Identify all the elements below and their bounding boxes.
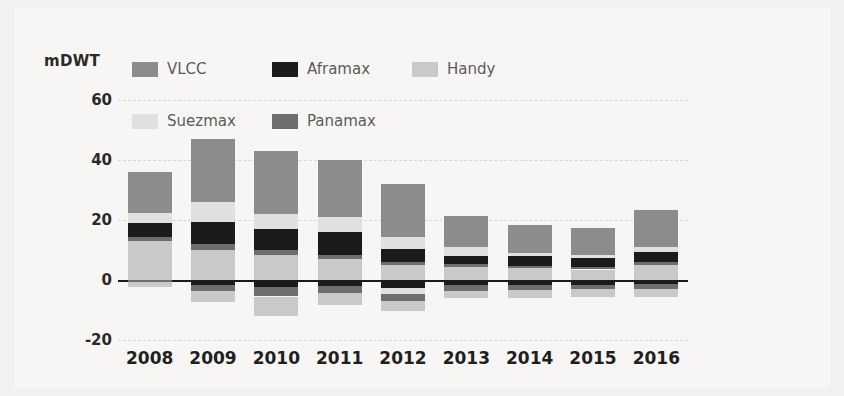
bar-segment-neg-2011-panamax bbox=[318, 286, 362, 293]
bar-segment-2010-suezmax bbox=[254, 214, 298, 229]
legend-label-vlcc: VLCC bbox=[167, 60, 207, 78]
bar-segment-2014-vlcc bbox=[508, 225, 552, 254]
legend-item-aframax[interactable]: Aframax bbox=[272, 60, 370, 78]
bar-segment-2011-handy bbox=[318, 259, 362, 280]
legend-swatch-aframax bbox=[272, 62, 298, 77]
x-axis-tick-2012: 2012 bbox=[368, 348, 438, 368]
bar-segment-2015-aframax bbox=[571, 258, 615, 267]
bar-group-2008[interactable] bbox=[128, 100, 172, 340]
bar-segment-2013-handy bbox=[444, 267, 488, 281]
bar-segment-2012-handy bbox=[381, 265, 425, 280]
bar-segment-neg-2010-handy bbox=[254, 297, 298, 317]
x-axis-tick-2011: 2011 bbox=[305, 348, 375, 368]
x-axis-tick-2009: 2009 bbox=[178, 348, 248, 368]
bar-segment-2008-panamax bbox=[128, 237, 172, 242]
bar-segment-2008-vlcc bbox=[128, 172, 172, 213]
bar-segment-2011-panamax bbox=[318, 255, 362, 260]
bar-segment-2010-aframax bbox=[254, 229, 298, 250]
bar-segment-2013-vlcc bbox=[444, 216, 488, 248]
bar-segment-2010-vlcc bbox=[254, 151, 298, 214]
bar-group-2011[interactable] bbox=[318, 100, 362, 340]
bar-segment-2014-panamax bbox=[508, 266, 552, 268]
chart-plot-wrapper: mDWT VLCCAframaxHandySuezmaxPanamax 6040… bbox=[0, 0, 844, 396]
x-axis-tick-2010: 2010 bbox=[241, 348, 311, 368]
bar-segment-2015-vlcc bbox=[571, 228, 615, 255]
gridline--20 bbox=[118, 340, 688, 341]
bar-segment-2013-aframax bbox=[444, 256, 488, 264]
legend-item-handy[interactable]: Handy bbox=[412, 60, 495, 78]
bar-group-2014[interactable] bbox=[508, 100, 552, 340]
x-axis-tick-2014: 2014 bbox=[495, 348, 565, 368]
bar-segment-2012-aframax bbox=[381, 249, 425, 263]
bar-segment-neg-2016-handy bbox=[634, 289, 678, 297]
bar-group-2015[interactable] bbox=[571, 100, 615, 340]
bar-segment-2009-suezmax bbox=[191, 202, 235, 222]
x-axis-tick-2015: 2015 bbox=[558, 348, 628, 368]
bar-segment-neg-2009-panamax bbox=[191, 285, 235, 292]
legend-row: VLCCAframaxHandy bbox=[132, 60, 602, 86]
bar-group-2010[interactable] bbox=[254, 100, 298, 340]
chart-figure: mDWT VLCCAframaxHandySuezmaxPanamax 6040… bbox=[0, 0, 844, 396]
x-axis-tick-2016: 2016 bbox=[621, 348, 691, 368]
x-axis-tick-2008: 2008 bbox=[115, 348, 185, 368]
bar-segment-neg-2013-handy bbox=[444, 291, 488, 298]
bar-segment-neg-2012-aframax bbox=[381, 280, 425, 288]
bar-segment-2009-vlcc bbox=[191, 139, 235, 202]
y-axis-unit-label: mDWT bbox=[44, 52, 100, 70]
bar-segment-2016-panamax bbox=[634, 262, 678, 265]
bar-segment-2015-suezmax bbox=[571, 255, 615, 259]
y-axis-tick-0: 0 bbox=[68, 271, 112, 289]
legend-label-aframax: Aframax bbox=[307, 60, 370, 78]
bar-group-2016[interactable] bbox=[634, 100, 678, 340]
bar-group-2009[interactable] bbox=[191, 100, 235, 340]
legend-item-vlcc[interactable]: VLCC bbox=[132, 60, 207, 78]
bar-segment-2015-panamax bbox=[571, 267, 615, 269]
bar-segment-2012-panamax bbox=[381, 262, 425, 265]
bar-segment-neg-2012-panamax bbox=[381, 294, 425, 301]
bar-segment-2011-suezmax bbox=[318, 217, 362, 232]
bar-segment-2016-handy bbox=[634, 265, 678, 280]
y-axis-tick-60: 60 bbox=[68, 91, 112, 109]
bar-segment-2011-aframax bbox=[318, 232, 362, 255]
bar-segment-2014-handy bbox=[508, 268, 552, 280]
y-axis-tick-20: 20 bbox=[68, 211, 112, 229]
bar-segment-2011-vlcc bbox=[318, 160, 362, 217]
bar-segment-neg-2008-handy bbox=[128, 282, 172, 287]
bar-segment-2010-panamax bbox=[254, 250, 298, 255]
bar-segment-neg-2009-handy bbox=[191, 291, 235, 302]
legend-label-handy: Handy bbox=[447, 60, 495, 78]
bar-segment-2015-handy bbox=[571, 270, 615, 281]
bar-segment-2016-suezmax bbox=[634, 247, 678, 252]
bar-segment-2014-suezmax bbox=[508, 253, 552, 256]
bar-segment-neg-2010-panamax bbox=[254, 287, 298, 296]
legend-swatch-handy bbox=[412, 62, 438, 77]
bar-segment-2010-handy bbox=[254, 255, 298, 281]
bar-group-2013[interactable] bbox=[444, 100, 488, 340]
bar-segment-2009-aframax bbox=[191, 222, 235, 245]
y-axis-tick--20: -20 bbox=[68, 331, 112, 349]
bar-segment-2012-suezmax bbox=[381, 237, 425, 249]
bar-segment-neg-2012-suezmax bbox=[381, 288, 425, 295]
bar-segment-2016-aframax bbox=[634, 252, 678, 263]
bar-segment-neg-2012-handy bbox=[381, 301, 425, 311]
bar-segment-neg-2015-handy bbox=[571, 289, 615, 297]
plot-area bbox=[118, 100, 688, 340]
bar-segment-2013-panamax bbox=[444, 264, 488, 267]
y-axis-ticks: 6040200-20 bbox=[56, 100, 112, 340]
bar-group-2012[interactable] bbox=[381, 100, 425, 340]
y-axis-tick-40: 40 bbox=[68, 151, 112, 169]
legend-swatch-vlcc bbox=[132, 62, 158, 77]
bar-segment-2008-handy bbox=[128, 241, 172, 280]
bar-segment-2016-vlcc bbox=[634, 210, 678, 248]
x-axis-tick-2013: 2013 bbox=[431, 348, 501, 368]
bar-segment-2012-vlcc bbox=[381, 184, 425, 237]
bar-segment-2014-aframax bbox=[508, 256, 552, 266]
bar-segment-2009-panamax bbox=[191, 244, 235, 250]
bar-segment-neg-2011-handy bbox=[318, 293, 362, 306]
bar-segment-neg-2010-aframax bbox=[254, 280, 298, 287]
bar-segment-neg-2014-handy bbox=[508, 290, 552, 298]
bar-segment-2008-aframax bbox=[128, 223, 172, 237]
bar-segment-2009-handy bbox=[191, 250, 235, 280]
bar-segment-2008-suezmax bbox=[128, 213, 172, 224]
bar-segment-2013-suezmax bbox=[444, 247, 488, 256]
